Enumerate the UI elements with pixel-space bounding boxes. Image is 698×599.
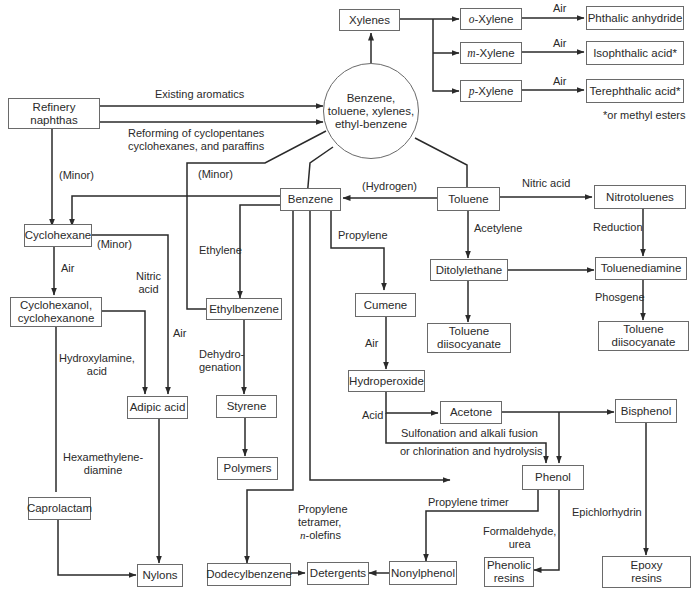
label-hexamethylenediamine: Hexamethylene- diamine <box>63 451 143 477</box>
label-acetylene: Acetylene <box>474 222 522 235</box>
terephthalic-acid-node: Terephthalic acid* <box>586 79 684 103</box>
adipic-acid-node: Adipic acid <box>127 396 188 419</box>
label-hydrogen: (Hydrogen) <box>362 180 417 193</box>
benzene-node: Benzene <box>280 188 341 211</box>
phenol-node: Phenol <box>522 465 584 490</box>
n-olefins-text: -olefins <box>306 529 341 541</box>
phthalic-anhydride-node: Phthalic anhydride <box>586 6 684 30</box>
m-xylene-label: -Xylene <box>476 47 515 59</box>
m-xylene-node: m-Xylene <box>460 42 522 64</box>
detergents-node: Detergents <box>307 562 369 585</box>
label-minor-naphtha: (Minor) <box>59 169 94 182</box>
hydroperoxide-node: Hydroperoxide <box>348 370 425 392</box>
label-propylene-trimer: Propylene trimer <box>428 496 509 509</box>
label-minor-cyclohexane: (Minor) <box>97 238 132 251</box>
label-existing-aromatics: Existing aromatics <box>155 88 244 101</box>
label-air-adipic: Air <box>173 327 186 340</box>
label-nitric-acid-toluene: Nitric acid <box>522 177 570 190</box>
btx-pool-node: Benzene, toluene, xylenes, ethyl-benzene <box>323 63 419 159</box>
nonylphenol-node: Nonylphenol <box>389 561 457 585</box>
nylons-node: Nylons <box>137 564 183 587</box>
styrene-node: Styrene <box>216 395 277 418</box>
label-formaldehyde: Formaldehyde, urea <box>483 525 556 551</box>
label-air-cumene: Air <box>365 337 378 350</box>
cyclohexanol-node: Cyclohexanol, cyclohexanone <box>10 297 102 327</box>
o-xylene-label: -Xylene <box>474 13 513 25</box>
xylenes-node: Xylenes <box>339 9 400 31</box>
label-reforming: Reforming of cyclopentanes cyclohexanes,… <box>128 127 264 153</box>
label-propylene-tetramer: Propylene tetramer, <box>298 503 348 529</box>
isophthalic-acid-node: Isophthalic acid* <box>586 41 684 65</box>
o-xylene-node: o-Xylene <box>460 8 522 30</box>
cumene-node: Cumene <box>355 293 416 317</box>
caprolactam-node: Caprolactam <box>28 497 91 520</box>
label-reduction: Reduction <box>593 221 643 234</box>
cyclohexane-node: Cyclohexane <box>24 224 92 247</box>
phenolic-resins-node: Phenolic resins <box>484 557 534 587</box>
acetone-node: Acetone <box>440 401 502 424</box>
label-chlorination: or chlorination and hydrolysis <box>400 445 542 458</box>
refinery-naphthas-node: Refinery naphthas <box>8 98 100 129</box>
label-ethylene: Ethylene <box>199 244 242 257</box>
label-propylene: Propylene <box>338 229 388 242</box>
label-dehydrogenation: Dehydro- genation <box>199 348 244 374</box>
label-phosgene: Phosgene <box>595 291 645 304</box>
epoxy-resins-node: Epoxy resins <box>602 556 691 588</box>
bisphenol-node: Bisphenol <box>615 399 677 423</box>
label-acid: Acid <box>362 409 383 422</box>
polymers-node: Polymers <box>217 457 278 480</box>
label-air-m: Air <box>553 37 566 50</box>
ditolylethane-node: Ditolylethane <box>430 259 508 281</box>
label-n-olefins: n-olefins <box>300 529 341 542</box>
label-epichlorhydrin: Epichlorhydrin <box>572 506 642 519</box>
label-nitric-acid-adipic: Nitric acid <box>136 270 161 296</box>
dodecylbenzene-node: Dodecylbenzene <box>207 563 291 586</box>
label-minor-btx: (Minor) <box>198 168 233 181</box>
label-air-o: Air <box>553 2 566 15</box>
toluene-node: Toluene <box>437 187 500 211</box>
label-air-cyclohexane: Air <box>61 262 74 275</box>
ethylbenzene-node: Ethylbenzene <box>206 298 282 320</box>
toluene-diisocyanate-node-1: Toluene diisocyanate <box>427 323 511 353</box>
toluene-diisocyanate-node-2: Toluene diisocyanate <box>598 321 689 351</box>
nitrotoluenes-node: Nitrotoluenes <box>594 185 686 209</box>
p-xylene-node: p-Xylene <box>460 80 522 102</box>
label-air-p: Air <box>553 75 566 88</box>
label-hydroxylamine: Hydroxylamine, acid <box>59 352 135 378</box>
m-prefix: m <box>467 47 475 59</box>
footnote-methyl-esters: *or methyl esters <box>603 109 686 122</box>
label-sulfonation: Sulfonation and alkali fusion <box>401 427 538 440</box>
toluenediamine-node: Toluenediamine <box>595 257 687 280</box>
p-xylene-label: -Xylene <box>474 85 513 97</box>
